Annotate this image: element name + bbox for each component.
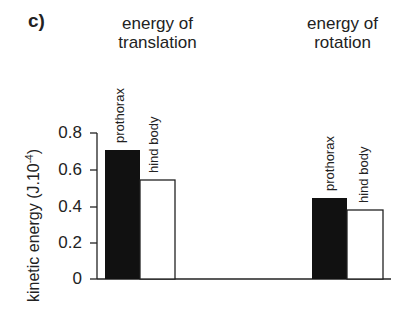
bar-rotation-hind-body bbox=[347, 210, 383, 279]
bar-translation-prothorax bbox=[105, 150, 140, 279]
bar-translation-hind-body bbox=[140, 180, 175, 279]
bar-rotation-prothorax bbox=[312, 198, 347, 279]
chart-plot bbox=[0, 0, 406, 315]
bar-label-translation-hind-body: hind body bbox=[146, 117, 161, 173]
bar-label-rotation-prothorax: prothorax bbox=[322, 136, 337, 191]
bar-label-translation-prothorax: prothorax bbox=[112, 88, 127, 143]
bar-label-rotation-hind-body: hind body bbox=[356, 147, 371, 203]
y-ticks bbox=[90, 133, 97, 279]
